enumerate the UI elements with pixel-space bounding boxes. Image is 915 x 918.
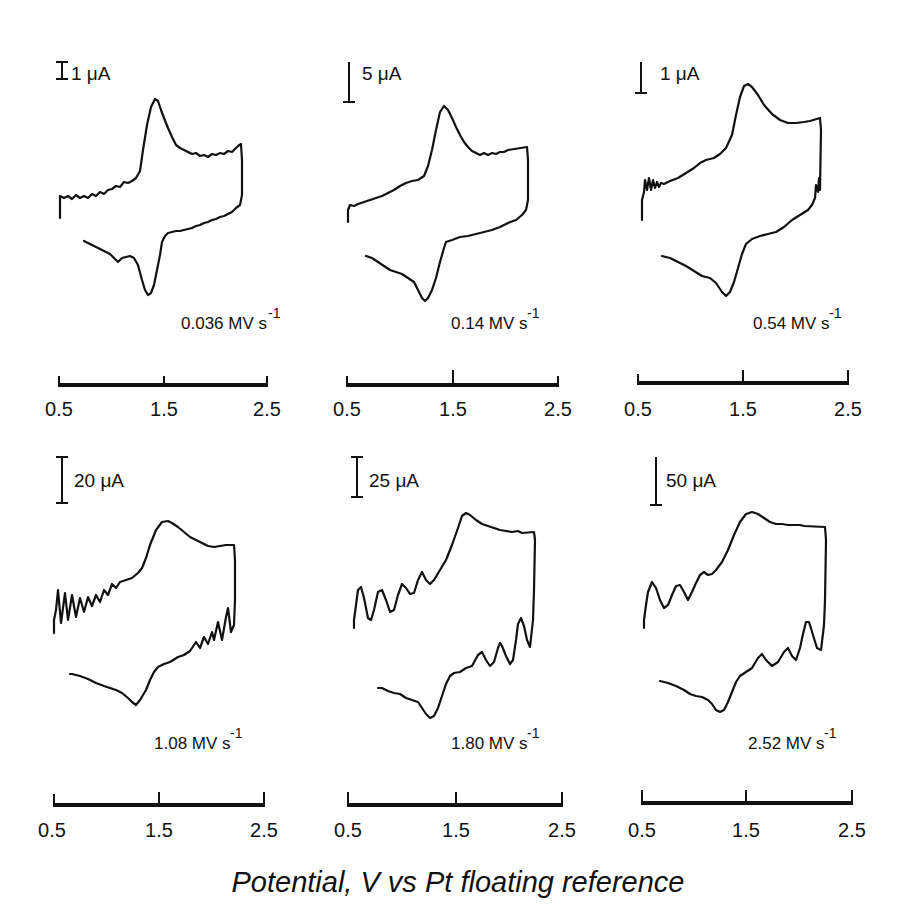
panel-2: 5 μA 0.14 MV s -1 0.5 1.5 2.5 bbox=[333, 62, 572, 420]
tick-label: 0.5 bbox=[628, 819, 656, 841]
scale-bar-label: 1 μA bbox=[660, 63, 700, 84]
scan-rate-label: 0.14 MV s -1 bbox=[451, 305, 540, 333]
tick-label: 2.5 bbox=[250, 819, 278, 841]
scan-rate-label: 0.036 MV s -1 bbox=[181, 305, 281, 333]
scale-bar-label: 20 μA bbox=[74, 470, 124, 491]
tick-label: 0.5 bbox=[38, 819, 66, 841]
potential-axis: 0.5 1.5 2.5 bbox=[334, 792, 576, 841]
svg-text:2.52 MV s: 2.52 MV s bbox=[748, 734, 825, 753]
svg-text:1.80 MV s: 1.80 MV s bbox=[451, 734, 528, 753]
current-scale-bar bbox=[56, 62, 68, 79]
tick-label: 1.5 bbox=[442, 819, 470, 841]
current-scale-bar bbox=[343, 62, 355, 102]
x-axis-title: Potential, V vs Pt floating reference bbox=[232, 866, 685, 898]
tick-label: 1.5 bbox=[729, 398, 757, 420]
cv-trace bbox=[60, 99, 242, 295]
tick-label: 1.5 bbox=[145, 819, 173, 841]
scale-bar-label: 5 μA bbox=[362, 63, 402, 84]
current-scale-bar bbox=[650, 457, 662, 505]
tick-label: 2.5 bbox=[548, 819, 576, 841]
svg-text:-1: -1 bbox=[230, 725, 243, 741]
scan-rate-label: 1.08 MV s -1 bbox=[154, 725, 243, 753]
svg-text:0.036 MV s: 0.036 MV s bbox=[181, 314, 267, 333]
panel-4: 20 μA 1.08 MV s -1 0.5 1.5 2.5 bbox=[38, 457, 278, 841]
cv-figure: 1 μA 0.036 MV s -1 0.5 1.5 2.5 5 μA 0.14… bbox=[0, 0, 915, 918]
svg-text:-1: -1 bbox=[829, 305, 842, 321]
panel-1: 1 μA 0.036 MV s -1 0.5 1.5 2.5 bbox=[45, 62, 281, 420]
scan-rate-label: 1.80 MV s -1 bbox=[451, 725, 540, 753]
tick-label: 0.5 bbox=[334, 819, 362, 841]
panel-6: 50 μA 2.52 MV s -1 0.5 1.5 2.5 bbox=[628, 457, 866, 841]
tick-label: 0.5 bbox=[45, 398, 73, 420]
svg-text:-1: -1 bbox=[824, 725, 837, 741]
svg-text:-1: -1 bbox=[527, 305, 540, 321]
tick-label: 2.5 bbox=[838, 819, 866, 841]
tick-label: 2.5 bbox=[544, 398, 572, 420]
panel-3: 1 μA 0.54 MV s -1 0.5 1.5 2.5 bbox=[624, 62, 862, 420]
panel-5: 25 μA 1.80 MV s -1 0.5 1.5 2.5 bbox=[334, 457, 576, 841]
potential-axis: 0.5 1.5 2.5 bbox=[624, 370, 862, 420]
potential-axis: 0.5 1.5 2.5 bbox=[628, 790, 866, 841]
tick-label: 1.5 bbox=[732, 819, 760, 841]
current-scale-bar bbox=[351, 457, 363, 497]
cv-trace bbox=[348, 106, 528, 301]
potential-axis: 0.5 1.5 2.5 bbox=[333, 370, 572, 420]
potential-axis: 0.5 1.5 2.5 bbox=[45, 376, 281, 420]
svg-text:-1: -1 bbox=[268, 305, 281, 321]
tick-label: 1.5 bbox=[150, 398, 178, 420]
cv-trace bbox=[54, 521, 235, 705]
scan-rate-label: 2.52 MV s -1 bbox=[748, 725, 837, 753]
scale-bar-label: 1 μA bbox=[71, 63, 111, 84]
svg-text:1.08 MV s: 1.08 MV s bbox=[154, 734, 231, 753]
cv-trace bbox=[642, 84, 821, 296]
scan-rate-label: 0.54 MV s -1 bbox=[753, 305, 842, 333]
scale-bar-label: 25 μA bbox=[369, 470, 419, 491]
svg-text:0.54 MV s: 0.54 MV s bbox=[753, 314, 830, 333]
potential-axis: 0.5 1.5 2.5 bbox=[38, 792, 278, 841]
svg-text:0.14 MV s: 0.14 MV s bbox=[451, 314, 528, 333]
tick-label: 2.5 bbox=[834, 398, 862, 420]
current-scale-bar bbox=[56, 457, 68, 503]
tick-label: 1.5 bbox=[439, 398, 467, 420]
tick-label: 0.5 bbox=[333, 398, 361, 420]
current-scale-bar bbox=[635, 62, 647, 93]
svg-text:-1: -1 bbox=[527, 725, 540, 741]
tick-label: 0.5 bbox=[624, 398, 652, 420]
scale-bar-label: 50 μA bbox=[666, 470, 716, 491]
cv-trace bbox=[354, 513, 535, 718]
cv-trace bbox=[644, 512, 826, 712]
tick-label: 2.5 bbox=[253, 398, 281, 420]
